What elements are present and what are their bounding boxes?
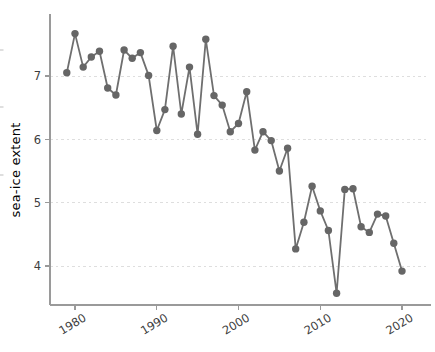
data-point (259, 128, 266, 135)
x-tick-label: 2010 (301, 311, 333, 338)
data-point (71, 30, 78, 37)
data-point (284, 145, 291, 152)
data-point (178, 110, 185, 117)
data-point (398, 267, 405, 274)
data-point (96, 48, 103, 55)
axes: 456719801990200020102020 (34, 14, 431, 338)
data-point (357, 223, 364, 230)
data-point (219, 101, 226, 108)
data-point (349, 185, 356, 192)
data-point (366, 229, 373, 236)
data-point (227, 128, 234, 135)
data-point (243, 88, 250, 95)
data-point (137, 49, 144, 56)
y-tick-label: 7 (34, 69, 41, 83)
y-tick-label: 4 (34, 259, 41, 273)
data-point (186, 63, 193, 70)
y-tick-label: 6 (34, 133, 41, 147)
y-axis-title: sea-ice extent (8, 122, 23, 217)
data-point (153, 127, 160, 134)
data-point (129, 55, 136, 62)
data-point (120, 46, 127, 53)
data-point (88, 53, 95, 60)
data-point (251, 146, 258, 153)
data-series (63, 30, 406, 297)
series-line (67, 34, 402, 294)
x-tick-label: 1980 (56, 311, 88, 338)
data-point (63, 69, 70, 76)
data-point (390, 240, 397, 247)
data-point (374, 210, 381, 217)
x-tick-label: 2000 (220, 311, 252, 338)
data-point (112, 91, 119, 98)
data-point (276, 167, 283, 174)
data-point (169, 43, 176, 50)
data-point (317, 207, 324, 214)
data-point (235, 120, 242, 127)
y-tick-label: 5 (34, 196, 41, 210)
data-point (341, 186, 348, 193)
gridlines (50, 76, 428, 266)
data-point (268, 137, 275, 144)
data-point (292, 245, 299, 252)
data-point (382, 212, 389, 219)
x-tick-label: 2020 (383, 311, 415, 338)
data-point (333, 290, 340, 297)
data-point (145, 72, 152, 79)
cropped-left-edge-ticks (0, 50, 4, 175)
data-point (202, 36, 209, 43)
data-point (161, 106, 168, 113)
data-point (325, 227, 332, 234)
data-point (194, 131, 201, 138)
data-point (104, 84, 111, 91)
sea-ice-extent-figure: 456719801990200020102020 sea-ice extent (0, 0, 435, 352)
data-point (80, 63, 87, 70)
x-tick-label: 1990 (138, 311, 170, 338)
data-point (210, 92, 217, 99)
sea-ice-extent-line-chart: 456719801990200020102020 sea-ice extent (0, 0, 435, 352)
data-point (300, 219, 307, 226)
data-point (308, 183, 315, 190)
